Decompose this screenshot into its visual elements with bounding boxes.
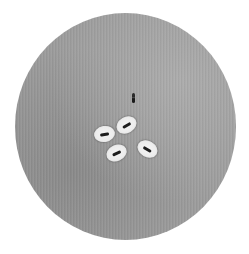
bacterial-rod: [99, 132, 108, 137]
bacterial-rod: [121, 121, 130, 128]
bacterial-rod: [111, 150, 120, 157]
unencapsulated-bacterium: [132, 93, 135, 103]
bacterial-rod: [142, 145, 151, 152]
